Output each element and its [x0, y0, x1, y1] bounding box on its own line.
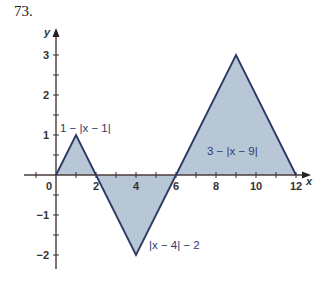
x-tick-label: 6 — [173, 180, 179, 192]
x-tick-label: 8 — [213, 180, 219, 192]
x-tick-label: 0 — [46, 180, 52, 192]
region-1 — [56, 135, 96, 175]
y-axis-arrow-icon — [53, 28, 60, 37]
x-tick-label: 2 — [93, 180, 99, 192]
x-tick-label: 10 — [250, 180, 262, 192]
y-tick-label: 1 — [43, 129, 49, 141]
y-tick-label: −2 — [36, 249, 49, 261]
curve-label: |x − 4| − 2 — [149, 239, 200, 251]
y-axis-label: y — [43, 26, 51, 38]
x-tick-label: 12 — [290, 180, 302, 192]
region-3 — [176, 55, 296, 175]
y-tick-label: 2 — [43, 89, 49, 101]
curve-label: 1 − |x − 1| — [60, 122, 111, 134]
chart: 024681012−2−1123xy1 − |x − 1||x − 4| − 2… — [0, 0, 322, 288]
y-tick-label: 3 — [43, 49, 49, 61]
x-tick-label: 4 — [133, 180, 140, 192]
y-tick-label: −1 — [36, 209, 49, 221]
curve-label: 3 − |x − 9| — [207, 145, 258, 157]
x-axis-label: x — [305, 175, 313, 187]
